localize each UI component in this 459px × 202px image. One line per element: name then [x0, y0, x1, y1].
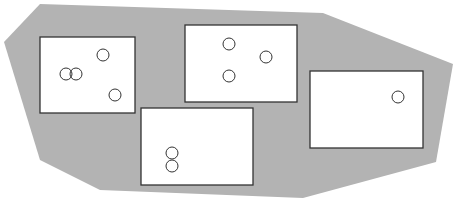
diagram-canvas	[0, 0, 459, 202]
box-3	[141, 108, 253, 185]
box-4	[310, 71, 423, 148]
box-2	[185, 25, 297, 102]
box-rect	[185, 25, 297, 102]
box-1	[40, 37, 135, 113]
box-rect	[40, 37, 135, 113]
box-rect	[310, 71, 423, 148]
box-rect	[141, 108, 253, 185]
